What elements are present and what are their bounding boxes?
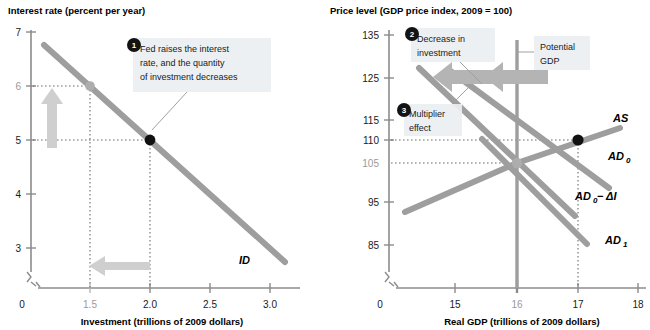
callout-2-line-2: investment [417,48,461,58]
right-axis-break [385,272,398,287]
curve-label-id: ID [239,254,250,266]
curve-label-ad1-group: AD 1 [604,234,628,249]
callout-3-line-2: effect [409,123,431,133]
final-equilibrium-point [512,158,522,168]
right-x-tick-15: 15 [449,299,461,310]
right-y-axis-title: Price level (GDP price index, 2009 = 100… [330,5,512,16]
callout-3-leader-line [452,88,468,104]
right-origin-label: 0 [377,299,383,310]
left-x-axis-title: Investment (trillions of 2009 dollars) [81,316,244,327]
curve-label-ad0-delta-i-suffix: − ΔI [597,190,617,202]
callout-3-badge-number: 3 [402,106,407,115]
fed-raises-rate-callout: Fed raises the interest rate, and the qu… [127,38,271,130]
right-x-tick-18: 18 [632,299,644,310]
economics-figure: Interest rate (percent per year) 7 6 5 4… [0,0,650,330]
left-chart-investment-demand: Interest rate (percent per year) 7 6 5 4… [8,5,300,327]
left-x-tick-2-5: 2.5 [203,299,217,310]
curve-label-ad1-subscript: 1 [623,240,628,249]
right-x-ticks [455,280,638,293]
old-equilibrium-point [85,81,95,91]
curve-label-ad0-subscript: 0 [626,156,631,165]
left-axis-break [27,272,40,287]
right-y-tick-95: 95 [368,197,380,208]
potential-gdp-line-1: Potential [540,42,575,52]
curve-label-ad0-delta-i-group: AD 0 − ΔI [574,190,617,205]
left-x-tick-3-0: 3.0 [263,299,277,310]
new-equilibrium-point [145,135,156,146]
curve-label-ad0: AD [607,150,624,162]
callout-1-badge-number: 1 [132,41,137,50]
callout-1-line-2: rate, and the quantity [140,58,225,68]
right-x-axis-title: Real GDP (trillions of 2009 dollars) [444,316,600,327]
investment-down-arrow [89,256,150,276]
callout-3-line-1: Multiplier [409,109,445,119]
potential-gdp-line-2: GDP [540,56,560,66]
left-y-tick-5: 5 [15,135,21,146]
right-y-tick-85: 85 [368,240,380,251]
interest-rate-up-arrow [41,88,63,148]
multiplier-effect-callout: Multiplier effect 3 [397,88,468,136]
callout-1-line-1: Fed raises the interest [140,44,230,54]
right-y-tick-125: 125 [362,73,379,84]
callout-1-line-3: of investment decreases [140,72,238,82]
right-y-tick-115: 115 [363,115,379,126]
right-y-tick-135: 135 [362,30,379,41]
curve-label-as: AS [612,112,629,124]
left-y-tick-7: 7 [15,27,21,38]
right-y-tick-110: 110 [363,135,379,146]
initial-equilibrium-point [572,134,583,145]
potential-gdp-callout: Potential GDP [518,36,590,70]
left-y-tick-3: 3 [15,243,21,254]
curve-label-ad0-group: AD 0 [607,150,631,165]
left-x-tick-2-0: 2.0 [143,299,157,310]
right-x-tick-17: 17 [572,299,584,310]
right-x-tick-16: 16 [511,299,523,310]
right-dotted-guides [391,140,578,288]
left-y-tick-6: 6 [15,81,21,92]
left-origin-label: 0 [19,299,25,310]
right-chart-ad-as: Price level (GDP price index, 2009 = 100… [330,5,646,327]
callout-2-line-1: Decrease in [417,34,465,44]
left-x-tick-1-5: 1.5 [83,299,97,310]
left-y-axis-title: Interest rate (percent per year) [8,5,145,16]
left-y-tick-4: 4 [15,189,21,200]
curve-label-ad0-delta-i: AD [574,190,591,202]
callout-1-leader-line [152,92,187,130]
callout-2-badge-number: 2 [410,30,415,39]
right-y-tick-105: 105 [362,158,379,169]
curve-label-ad1: AD [604,234,621,246]
